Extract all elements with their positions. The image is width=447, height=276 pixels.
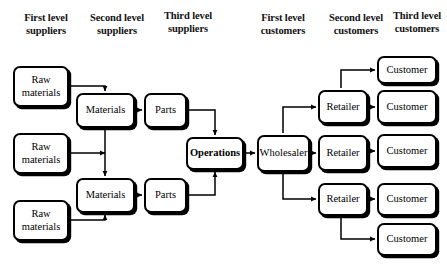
- node-label: Raw materials: [15, 208, 67, 233]
- column-header-first-level-customers: First levelcustomers: [245, 12, 321, 37]
- node-customer-2[interactable]: Customer: [377, 90, 437, 124]
- connector-raw3-to-materials2: [71, 215, 105, 220]
- column-header-second-level-suppliers: Second levelsuppliers: [78, 12, 156, 37]
- connector-parts2-to-operations: [189, 172, 215, 195]
- node-retailer-2[interactable]: Retailer: [318, 135, 368, 171]
- node-label: Retailer: [324, 193, 361, 206]
- node-retailer-1[interactable]: Retailer: [318, 90, 368, 124]
- connector-wholesaler-to-retailer1: [283, 107, 316, 133]
- column-header-line1: First level: [245, 12, 321, 25]
- node-customer-4[interactable]: Customer: [377, 183, 437, 216]
- connector-retailer1-to-customer1: [341, 70, 375, 88]
- node-label: Customer: [385, 101, 430, 114]
- node-raw-materials-3[interactable]: Raw materials: [13, 200, 69, 241]
- node-parts-2[interactable]: Parts: [144, 178, 187, 213]
- column-header-line1: Third level: [386, 10, 447, 23]
- node-label: Retailer: [324, 101, 361, 114]
- node-label: Retailer: [324, 147, 361, 160]
- node-materials-2[interactable]: Materials: [76, 178, 135, 213]
- connector-retailer3-to-customer5: [341, 218, 375, 239]
- node-raw-materials-2[interactable]: Raw materials: [13, 133, 69, 174]
- node-label: Customer: [385, 64, 430, 77]
- connector-parts1-to-operations: [189, 110, 215, 135]
- node-customer-3[interactable]: Customer: [377, 134, 437, 168]
- column-header-third-level-suppliers: Third levelsuppliers: [152, 10, 224, 35]
- column-header-line1: Third level: [152, 10, 224, 23]
- node-raw-materials-1[interactable]: Raw materials: [13, 66, 69, 107]
- node-label: Operations: [188, 147, 242, 160]
- connector-wholesaler-to-retailer3: [283, 174, 316, 199]
- column-header-first-level-suppliers: First levelsuppliers: [10, 12, 82, 37]
- node-operations[interactable]: Operations: [186, 137, 244, 170]
- column-header-third-level-customers: Third levelcustomers: [386, 10, 447, 35]
- column-header-line2: customers: [316, 25, 396, 38]
- node-customer-5[interactable]: Customer: [377, 223, 437, 256]
- supply-chain-diagram: First levelsuppliersSecond levelsupplier…: [0, 0, 447, 276]
- column-header-line2: customers: [386, 23, 447, 36]
- node-label: Customer: [385, 145, 430, 158]
- node-label: Parts: [153, 104, 178, 117]
- node-label: Wholesaler: [258, 147, 310, 160]
- node-label: Materials: [84, 104, 128, 117]
- column-header-line2: suppliers: [10, 25, 82, 38]
- column-header-second-level-customers: Second levelcustomers: [316, 12, 396, 37]
- node-label: Raw materials: [15, 74, 67, 99]
- connector-raw1-to-materials1: [71, 86, 105, 91]
- column-header-line1: Second level: [78, 12, 156, 25]
- node-label: Raw materials: [15, 141, 67, 166]
- column-header-line2: suppliers: [78, 25, 156, 38]
- node-wholesaler[interactable]: Wholesaler: [257, 135, 310, 172]
- column-header-line2: customers: [245, 25, 321, 38]
- node-label: Materials: [84, 189, 128, 202]
- node-label: Customer: [385, 193, 430, 206]
- column-header-line1: Second level: [316, 12, 396, 25]
- node-label: Customer: [385, 233, 430, 246]
- node-customer-1[interactable]: Customer: [377, 56, 437, 84]
- node-retailer-3[interactable]: Retailer: [318, 183, 368, 216]
- node-label: Parts: [153, 189, 178, 202]
- column-header-line2: suppliers: [152, 23, 224, 36]
- node-parts-1[interactable]: Parts: [144, 93, 187, 128]
- column-header-line1: First level: [10, 12, 82, 25]
- node-materials-1[interactable]: Materials: [76, 93, 135, 128]
